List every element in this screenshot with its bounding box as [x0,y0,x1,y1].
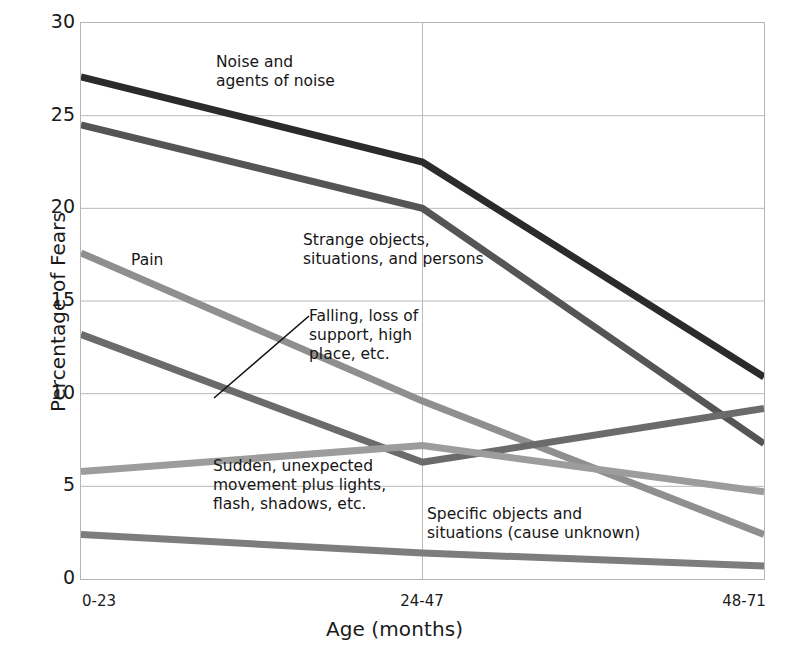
y-tick-15: 15 [35,290,75,309]
annotation-falling: Falling, loss of support, high place, et… [309,307,418,364]
y-tick-30: 30 [35,12,75,31]
y-tick-25: 25 [35,105,75,124]
plot-svg [81,23,764,579]
annotation-sudden-movement: Sudden, unexpected movement plus lights,… [213,457,386,514]
fear-percentage-line-chart: Percentage of Fears 30 25 20 15 10 5 0 [0,0,789,652]
annotation-noise: Noise and agents of noise [216,53,335,91]
y-tick-0: 0 [35,568,75,587]
y-tick-5: 5 [35,475,75,494]
y-tick-20: 20 [35,197,75,216]
x-tick-24-47: 24-47 [400,592,444,610]
cropped-header-text [0,0,789,14]
y-tick-10: 10 [35,383,75,402]
x-axis-title: Age (months) [0,617,789,641]
annotation-specific-objects: Specific objects and situations (cause u… [427,505,640,543]
annotation-strange-objects: Strange objects, situations, and persons [303,231,484,269]
x-tick-48-71: 48-71 [722,592,766,610]
annotation-pain: Pain [131,251,163,270]
x-tick-0-23: 0-23 [82,592,116,610]
plot-area [80,22,765,580]
x-axis-tick-labels: 0-23 24-47 48-71 [0,592,789,618]
y-axis-tick-labels: 30 25 20 15 10 5 0 [20,0,75,652]
